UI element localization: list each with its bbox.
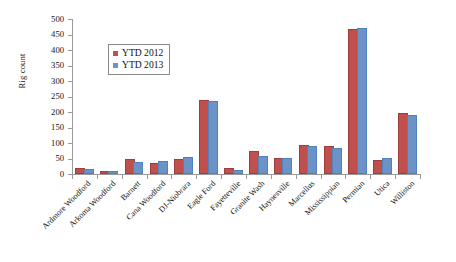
bar-group bbox=[246, 19, 271, 174]
y-axis-tick-label: 450 bbox=[28, 30, 64, 39]
bar-ytd-2013 bbox=[108, 171, 118, 174]
y-axis-tick-label: 0 bbox=[28, 170, 64, 179]
bar-group bbox=[171, 19, 196, 174]
y-axis-title: Rig count bbox=[17, 31, 27, 111]
y-axis-tick-label: 300 bbox=[28, 77, 64, 86]
x-axis-tick-mark bbox=[370, 175, 371, 179]
bar-ytd-2013 bbox=[307, 146, 317, 174]
x-axis-tick-mark bbox=[122, 175, 123, 179]
legend-swatch-ytd-2012 bbox=[113, 51, 118, 56]
bar-ytd-2013 bbox=[158, 161, 168, 174]
y-axis-tick-label: 50 bbox=[28, 154, 64, 163]
bar-group bbox=[321, 19, 346, 174]
bar-ytd-2013 bbox=[258, 156, 268, 174]
x-axis-tick-mark bbox=[395, 175, 396, 179]
legend-swatch-ytd-2013 bbox=[113, 63, 118, 68]
y-axis-tick-label: 150 bbox=[28, 123, 64, 132]
x-axis-tick-mark bbox=[147, 175, 148, 179]
bar-ytd-2013 bbox=[382, 158, 392, 174]
bar-ytd-2013 bbox=[407, 115, 417, 174]
y-axis-tick-label: 400 bbox=[28, 46, 64, 55]
bar-ytd-2013 bbox=[332, 148, 342, 174]
bar-group bbox=[296, 19, 321, 174]
bar-group bbox=[395, 19, 420, 174]
bar-group bbox=[122, 19, 147, 174]
bar-group bbox=[370, 19, 395, 174]
bar-group bbox=[221, 19, 246, 174]
x-axis-tick-mark bbox=[97, 175, 98, 179]
bar-group bbox=[72, 19, 97, 174]
y-axis-tick-label: 350 bbox=[28, 61, 64, 70]
legend-item: YTD 2012 bbox=[113, 47, 163, 59]
bar-group bbox=[97, 19, 122, 174]
bar-ytd-2013 bbox=[133, 162, 143, 174]
rig-count-bar-chart: Rig count 050100150200250300350400450500… bbox=[0, 0, 456, 262]
x-axis-tick-mark bbox=[321, 175, 322, 179]
y-axis-tick-label: 500 bbox=[28, 15, 64, 24]
y-axis-tick-label: 250 bbox=[28, 92, 64, 101]
bar-ytd-2013 bbox=[357, 28, 367, 174]
x-axis-tick-mark bbox=[420, 175, 421, 179]
bar-group bbox=[345, 19, 370, 174]
x-axis-tick-mark bbox=[345, 175, 346, 179]
legend-item: YTD 2013 bbox=[113, 59, 163, 71]
bar-ytd-2013 bbox=[183, 157, 193, 174]
chart-legend: YTD 2012 YTD 2013 bbox=[108, 44, 170, 75]
bar-group bbox=[196, 19, 221, 174]
bar-ytd-2013 bbox=[208, 101, 218, 174]
bar-ytd-2013 bbox=[282, 158, 292, 174]
x-axis-tick-mark bbox=[246, 175, 247, 179]
legend-label-ytd-2013: YTD 2013 bbox=[122, 59, 163, 71]
x-axis-tick-mark bbox=[171, 175, 172, 179]
bar-group bbox=[271, 19, 296, 174]
legend-label-ytd-2012: YTD 2012 bbox=[122, 47, 163, 59]
bar-group bbox=[147, 19, 172, 174]
plot-area bbox=[72, 19, 420, 174]
y-axis-tick-label: 200 bbox=[28, 108, 64, 117]
bar-ytd-2013 bbox=[233, 170, 243, 174]
x-axis-tick-mark bbox=[296, 175, 297, 179]
x-axis-tick-mark bbox=[196, 175, 197, 179]
x-axis-tick-mark bbox=[72, 175, 73, 179]
x-axis-tick-mark bbox=[271, 175, 272, 179]
y-axis-tick-label: 100 bbox=[28, 139, 64, 148]
x-axis-tick-mark bbox=[221, 175, 222, 179]
bar-ytd-2013 bbox=[84, 169, 94, 174]
